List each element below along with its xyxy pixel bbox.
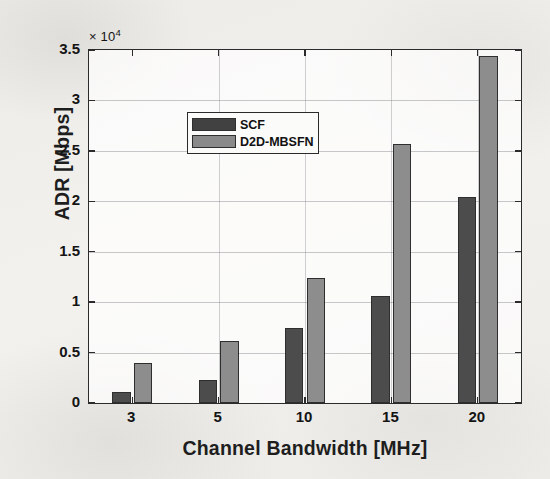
bar-d2d-mbsfn-20mhz xyxy=(479,56,498,403)
x-axis-title: Channel Bandwidth [MHz] xyxy=(88,437,522,460)
y-axis-tick-label: 1.5 xyxy=(34,242,80,259)
y-axis-tick-label: 1 xyxy=(34,292,80,309)
y-axis-tick-label: 3 xyxy=(34,90,80,107)
chart-figure: × 104 ADR [Mbps] Channel Bandwidth [MHz]… xyxy=(0,0,550,479)
legend-item-d2d-mbsfn: D2D-MBSFN xyxy=(192,133,314,150)
x-axis-tick-label: 5 xyxy=(196,408,240,425)
bar-d2d-mbsfn-3mhz xyxy=(134,363,153,403)
bar-scf-3mhz xyxy=(112,392,131,403)
x-axis-tick-label: 20 xyxy=(455,408,499,425)
bars-layer xyxy=(89,50,521,403)
y-axis-tick-label: 0.5 xyxy=(34,343,80,360)
y-axis-exponent-power: 4 xyxy=(115,27,120,38)
plot-area: SCF D2D-MBSFN xyxy=(88,49,522,404)
y-axis-tick-label: 0 xyxy=(34,393,80,410)
x-axis-tick-label: 15 xyxy=(368,408,412,425)
bar-scf-5mhz xyxy=(199,380,218,403)
bar-scf-10mhz xyxy=(285,328,304,403)
y-axis-tick-label: 2.5 xyxy=(34,141,80,158)
bar-scf-15mhz xyxy=(371,296,390,403)
y-axis-tick-label: 3.5 xyxy=(34,40,80,57)
y-axis-tick-label: 2 xyxy=(34,191,80,208)
legend-label-scf: SCF xyxy=(240,118,265,132)
legend-swatch-d2d-mbsfn xyxy=(192,135,236,148)
legend-label-d2d-mbsfn: D2D-MBSFN xyxy=(240,135,314,149)
y-axis-exponent-label: × 104 xyxy=(89,27,121,44)
y-axis-exponent-mantissa: × 10 xyxy=(89,29,115,44)
bar-d2d-mbsfn-15mhz xyxy=(393,144,412,403)
x-axis-tick-label: 3 xyxy=(109,408,153,425)
legend-item-scf: SCF xyxy=(192,116,314,133)
legend-swatch-scf xyxy=(192,118,236,131)
y-axis-title: ADR [Mbps] xyxy=(51,54,74,274)
bar-d2d-mbsfn-5mhz xyxy=(220,341,239,403)
bar-scf-20mhz xyxy=(458,197,477,403)
bar-d2d-mbsfn-10mhz xyxy=(307,278,326,403)
x-axis-tick-label: 10 xyxy=(282,408,326,425)
chart-legend: SCF D2D-MBSFN xyxy=(187,112,319,154)
